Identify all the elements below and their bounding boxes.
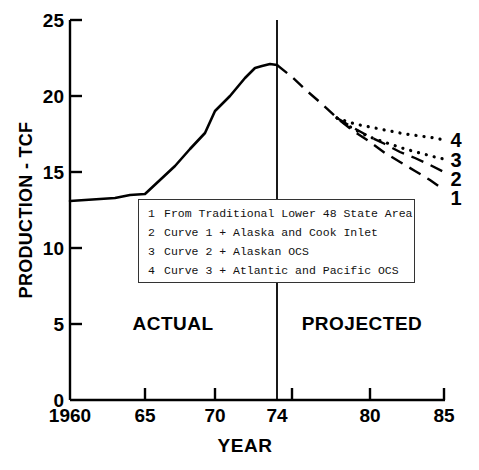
- actual-region-label: ACTUAL: [132, 313, 213, 334]
- chart-legend: 1 From Traditional Lower 48 State Area 2…: [138, 199, 415, 283]
- curve-4-end-label: 4: [450, 129, 462, 151]
- legend-key: 1: [148, 207, 164, 220]
- y-tick-label-10: 10: [43, 238, 64, 259]
- legend-description: Curve 1 + Alaska and Cook Inlet: [164, 226, 378, 239]
- y-tick-label-20: 20: [43, 86, 64, 107]
- y-axis-ticks: [70, 20, 82, 324]
- series-curve-1-line: [277, 65, 444, 190]
- y-tick-label-25: 25: [43, 10, 65, 31]
- legend-item: 1 From Traditional Lower 48 State Area: [139, 204, 414, 223]
- y-axis-title: PRODUCTION - TCF: [16, 122, 36, 299]
- legend-item: 3 Curve 2 + Alaskan OCS: [139, 242, 414, 261]
- x-tick-label-70: 70: [204, 405, 225, 426]
- legend-key: 2: [148, 226, 164, 239]
- y-tick-label-15: 15: [43, 162, 65, 183]
- curve-1-end-label: 1: [450, 187, 461, 209]
- legend-description: From Traditional Lower 48 State Area: [164, 207, 412, 220]
- series-curve-4-line: [337, 118, 444, 140]
- series-actual-line: [70, 64, 277, 201]
- y-tick-label-5: 5: [53, 314, 64, 335]
- x-tick-label-80: 80: [359, 405, 380, 426]
- curve-end-labels: 4 3 2 1: [450, 129, 462, 209]
- legend-key: 4: [148, 264, 164, 277]
- x-tick-label-1960: 1960: [49, 405, 91, 426]
- legend-description: Curve 2 + Alaskan OCS: [164, 245, 309, 258]
- legend-item: 4 Curve 3 + Atlantic and Pacific OCS: [139, 261, 414, 280]
- production-forecast-chart: 25 20 15 10 5 0 1960 65 70 74 80 85 YEAR…: [0, 0, 479, 470]
- x-tick-label-85: 85: [433, 405, 455, 426]
- legend-item: 2 Curve 1 + Alaska and Cook Inlet: [139, 223, 414, 242]
- projected-region-label: PROJECTED: [302, 313, 423, 334]
- y-axis-tick-labels: 25 20 15 10 5 0: [43, 10, 65, 411]
- x-tick-label-74: 74: [266, 405, 288, 426]
- legend-key: 3: [148, 245, 164, 258]
- series-curve-2-line: [337, 118, 444, 172]
- x-axis-title: YEAR: [218, 435, 273, 456]
- x-tick-label-65: 65: [134, 405, 156, 426]
- x-axis-ticks: [145, 388, 444, 400]
- x-axis-tick-labels: 1960 65 70 74 80 85: [49, 405, 455, 426]
- legend-description: Curve 3 + Atlantic and Pacific OCS: [164, 264, 399, 277]
